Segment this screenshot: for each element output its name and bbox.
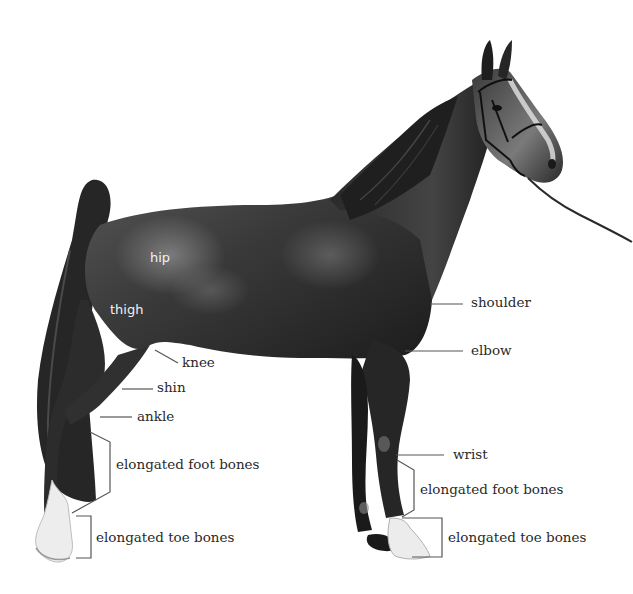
label-hind-toe-bones: elongated toe bones [96, 531, 234, 545]
label-thigh: thigh [110, 303, 143, 316]
fore-hoof-near [388, 518, 430, 559]
label-knee: knee [182, 356, 215, 370]
label-ankle: ankle [137, 410, 174, 424]
label-wrist: wrist [453, 448, 488, 462]
label-elbow: elbow [471, 344, 512, 358]
horse-illustration [0, 0, 633, 594]
label-hip: hip [150, 251, 170, 264]
label-fore-foot-bones: elongated foot bones [420, 483, 564, 497]
horse-anatomy-diagram: hip thigh knee shin ankle elongated foot… [0, 0, 633, 594]
label-fore-toe-bones: elongated toe bones [448, 531, 586, 545]
ear-left [481, 40, 493, 80]
lead-rope [528, 178, 632, 242]
label-shoulder: shoulder [471, 296, 531, 310]
foreleg-near [362, 340, 410, 518]
label-shin: shin [157, 381, 186, 395]
label-hind-foot-bones: elongated foot bones [116, 458, 260, 472]
